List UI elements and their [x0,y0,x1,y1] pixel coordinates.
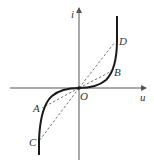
characteristic-curve [39,16,117,155]
point-b-label: B [114,66,121,78]
chord-oc [39,88,79,141]
origin-label: O [80,90,88,102]
chord-od [79,42,115,88]
point-d-label: D [118,35,127,47]
point-c-label: C [29,136,37,148]
y-axis-label: i [71,8,74,20]
x-axis-label: u [140,91,146,103]
point-a-label: A [32,102,40,114]
dashed-chords [39,42,115,141]
iu-characteristic-diagram: i u O D B A C [0,0,154,167]
